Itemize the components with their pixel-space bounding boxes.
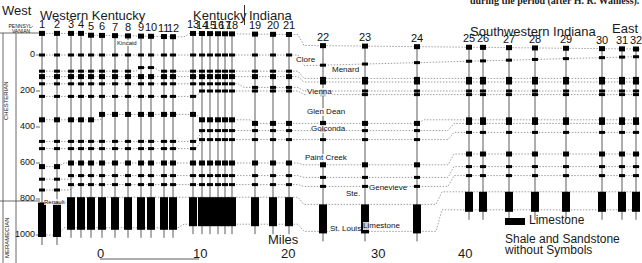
formation-label-ste-: Ste. [346,190,360,198]
well-22 [319,43,327,241]
scale-title: Miles [268,233,298,246]
scale-tick-label: 0 [97,247,104,260]
well-number-label: 1 [39,19,45,30]
well-5 [87,33,95,238]
well-number-label: 27 [503,34,515,45]
formation-label-limestone: Limestone [363,222,400,230]
depth-tick-label: 200 [20,86,35,95]
legend-note-line2: without Symbols [505,244,592,256]
well-28 [531,45,539,219]
well-8 [124,33,132,237]
well-number-label: 12 [167,23,179,34]
formation-label-glen-dean: Glen Dean [307,108,345,116]
well-number-label: 30 [596,35,608,46]
well-number-label: 28 [529,34,541,45]
formation-label-kincaid: Kincaid [117,40,137,46]
well-13 [189,31,197,234]
well-number-label: 23 [359,32,371,43]
well-24 [413,44,421,241]
scale-tick-label: 40 [458,247,472,260]
well-18 [228,31,236,234]
well-3 [67,31,75,238]
depth-tick-label: 1000 [15,230,35,239]
well-number-label: 6 [99,21,105,32]
well-number-label: 24 [411,33,423,44]
system-label-chesterian: CHESTERIAN [3,60,9,120]
well-number-label: 29 [560,34,572,45]
well-27 [505,45,513,220]
well-number-label: 3 [68,19,74,30]
formation-label-renault: Renault [44,199,65,205]
well-9 [137,34,145,238]
depth-tick-label: 600 [20,158,35,167]
well-12 [169,34,177,238]
formation-label-paint-creek: Paint Creek [305,154,347,162]
well-14 [198,31,206,234]
well-number-label: 20 [267,20,279,31]
depth-tick-label: 400 [20,122,35,131]
well-number-label: 9 [138,22,144,33]
state-boundary-divider [244,5,245,25]
formation-label-menard: Menard [332,66,359,74]
well-number-label: 31 [616,35,628,46]
formation-label-st-louis: St. Louis [330,225,361,233]
well-number-label: 8 [125,22,131,33]
well-16 [214,31,222,234]
scale-tick-label: 10 [193,247,207,260]
well-7 [111,33,119,238]
well-32 [632,47,640,220]
well-19 [251,32,259,235]
well-6 [98,33,106,238]
well-10 [147,34,155,238]
well-number-label: 26 [477,33,489,44]
well-21 [285,32,293,234]
legend-limestone-label: Limestone [529,214,584,226]
system-label-meramecian: MERAMECIAN [4,208,10,258]
well-number-label: 5 [88,21,94,32]
well-number-label: 18 [226,20,238,31]
system-label-pennsylvanian: PENNSYL- VANIAN [4,24,38,34]
well-4 [77,31,85,238]
direction-west: West [2,4,31,17]
depth-tick-label: 0 [30,50,35,59]
scale-tick-label: 30 [371,247,385,260]
well-1 [38,31,46,245]
well-15 [206,31,214,234]
well-number-label: 32 [630,35,642,46]
well-number-label: 22 [317,32,329,43]
formation-label-vienna: Vienna [307,88,332,96]
depth-tick-label: 800 [20,194,35,203]
well-number-label: 2 [54,19,60,30]
well-26 [479,45,487,220]
formation-label-genevieve: Genevieve [369,184,407,192]
formation-label-clore: Clore [296,56,315,64]
well-number-label: 19 [249,20,261,31]
well-2 [53,31,61,245]
well-number-label: 7 [112,22,118,33]
well-number-label: 4 [78,19,84,30]
well-number-label: 21 [283,20,295,31]
well-29 [562,46,570,220]
well-number-label: 25 [463,33,475,44]
formation-label-golconda: Golconda [311,125,345,133]
well-17 [221,31,229,234]
scale-tick-label: 20 [281,247,295,260]
figure-caption: during the period (after H. R. Wanless). [470,0,639,6]
well-31 [618,46,626,219]
limestone-swatch [505,218,525,225]
well-20 [269,32,277,234]
well-23 [361,44,369,242]
well-25 [465,45,473,220]
well-11 [160,34,168,238]
well-number-label: 10 [145,22,157,33]
well-30 [598,46,606,220]
